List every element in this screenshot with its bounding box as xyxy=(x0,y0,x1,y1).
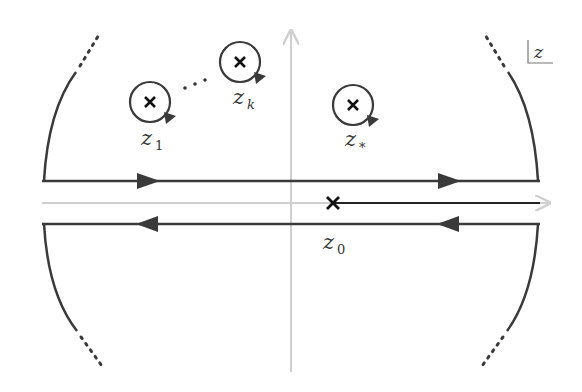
svg-text:0: 0 xyxy=(337,242,345,257)
svg-text:z: z xyxy=(344,127,357,151)
x-marker-icon xyxy=(348,100,358,110)
contour-diagram: z z 1 xyxy=(0,0,582,392)
arrow-right-icon xyxy=(438,173,461,189)
arrow-icon xyxy=(254,72,266,84)
svg-text:z: z xyxy=(533,42,544,62)
pole-z1: z 1 xyxy=(130,82,176,153)
svg-text:*: * xyxy=(359,140,366,155)
right-lower-arc xyxy=(482,224,538,366)
pole-zk: z k xyxy=(220,42,266,112)
left-lower-arc xyxy=(44,224,102,366)
arrow-left-icon xyxy=(136,216,158,232)
arrow-left-icon xyxy=(437,216,459,232)
svg-text:k: k xyxy=(247,97,255,112)
svg-text:z: z xyxy=(140,126,153,150)
branch-point-z0: z 0 xyxy=(322,197,345,257)
left-upper-arc xyxy=(44,33,100,181)
x-marker-icon xyxy=(235,57,245,67)
right-upper-arc xyxy=(484,33,538,181)
svg-text:z: z xyxy=(322,230,335,254)
arrow-icon xyxy=(367,115,379,127)
arrow-right-icon xyxy=(137,173,160,189)
ellipsis-dots xyxy=(183,78,207,90)
plane-label: z xyxy=(528,40,553,63)
svg-text:z: z xyxy=(232,85,245,109)
pole-zstar: z * xyxy=(333,85,379,155)
arrow-icon xyxy=(164,112,176,124)
x-marker-icon xyxy=(145,97,155,107)
svg-text:1: 1 xyxy=(155,138,163,153)
